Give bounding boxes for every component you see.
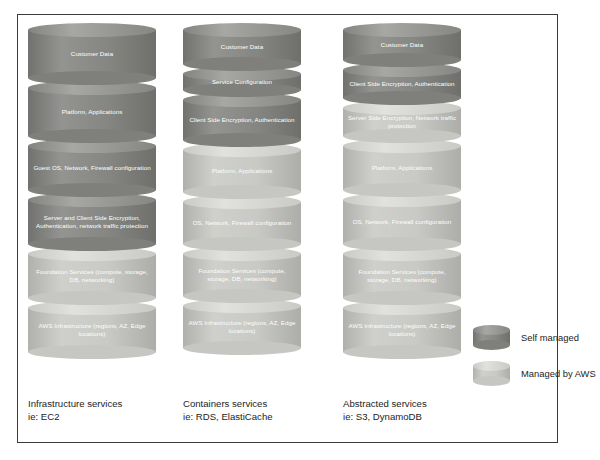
cylinder-layer: AWS Infrastructure (regions, AZ, Edge lo… bbox=[183, 299, 301, 355]
cylinder-layer: Foundation Services (compute, storage, D… bbox=[183, 247, 301, 303]
cylinder-layer: Platform, Applications bbox=[343, 139, 461, 197]
diagram-frame: Customer DataPlatform, ApplicationsGuest… bbox=[17, 14, 558, 443]
cylinder-bottom-ellipse bbox=[183, 133, 301, 147]
cylinder-bottom-ellipse bbox=[343, 91, 461, 105]
cylinder-layer: Foundation Services (compute, storage, D… bbox=[343, 247, 461, 305]
cylinder-bottom-ellipse bbox=[343, 183, 461, 197]
cylinder-layer: Platform, Applications bbox=[28, 81, 156, 143]
cylinder-top-ellipse bbox=[28, 23, 156, 37]
cylinder-layer: Foundation Services (compute, storage, D… bbox=[28, 247, 156, 305]
caption-example: ie: EC2 bbox=[28, 411, 178, 424]
cylinder-layer: Customer Data bbox=[28, 23, 156, 85]
caption-infrastructure-services: Infrastructure services ie: EC2 bbox=[28, 398, 178, 423]
caption-example: ie: S3, DynamoDB bbox=[343, 411, 493, 424]
cylinder-bottom-ellipse bbox=[473, 376, 510, 386]
cylinder-bottom-ellipse bbox=[183, 83, 301, 97]
cylinder-bottom-ellipse bbox=[28, 291, 156, 305]
cylinder-layer: Client Side Encryption, Authentication bbox=[183, 93, 301, 147]
cylinder-bottom-ellipse bbox=[183, 185, 301, 199]
cylinder-layer: OS, Network, Firewall configuration bbox=[343, 193, 461, 251]
caption-example: ie: RDS, ElastiCache bbox=[183, 411, 333, 424]
cylinder-layer: Client Side Encryption, Authentication bbox=[343, 63, 461, 105]
caption-containers-services: Containers services ie: RDS, ElastiCache bbox=[183, 398, 333, 423]
cylinder-bottom-ellipse bbox=[473, 340, 510, 350]
cylinder-top-ellipse bbox=[473, 361, 510, 371]
cylinder-bottom-ellipse bbox=[28, 183, 156, 197]
cylinder-top-ellipse bbox=[473, 325, 510, 335]
caption-title: Infrastructure services bbox=[28, 398, 122, 409]
legend-swatch-self-managed bbox=[473, 325, 510, 350]
legend-item: Managed by AWS bbox=[473, 357, 600, 393]
cylinder-layer: Server and Client Side Encryption, Authe… bbox=[28, 193, 156, 251]
cylinder-bottom-ellipse bbox=[343, 237, 461, 251]
legend-item: Self managed bbox=[473, 321, 600, 357]
cylinder-bottom-ellipse bbox=[28, 237, 156, 251]
cylinder-layer: AWS Infrastructure (regions, AZ, Edge lo… bbox=[28, 301, 156, 359]
cylinder-bottom-ellipse bbox=[183, 57, 301, 71]
cylinder-bottom-ellipse bbox=[28, 345, 156, 359]
cylinder-bottom-ellipse bbox=[183, 289, 301, 303]
legend-label: Self managed bbox=[521, 332, 579, 343]
cylinder-layer: Customer Data bbox=[183, 23, 301, 71]
caption-title: Containers services bbox=[183, 398, 267, 409]
cylinder-layer: Customer Data bbox=[343, 23, 461, 67]
cylinder-bottom-ellipse bbox=[183, 237, 301, 251]
cylinder-layer: AWS Infrastructure (regions, AZ, Edge lo… bbox=[343, 301, 461, 359]
caption-abstracted-services: Abstracted services ie: S3, DynamoDB bbox=[343, 398, 493, 423]
cylinder-layer: Service Configuration bbox=[183, 67, 301, 97]
cylinder-top-ellipse bbox=[183, 23, 301, 37]
cylinder-layer: OS, Network, Firewall configuration bbox=[183, 195, 301, 251]
cylinder-layer: Guest OS, Network, Firewall configuratio… bbox=[28, 139, 156, 197]
legend: Self managedManaged by AWS bbox=[473, 321, 600, 393]
caption-title: Abstracted services bbox=[343, 398, 427, 409]
cylinder-bottom-ellipse bbox=[343, 291, 461, 305]
cylinder-bottom-ellipse bbox=[183, 341, 301, 355]
cylinder-bottom-ellipse bbox=[343, 53, 461, 67]
legend-label: Managed by AWS bbox=[521, 368, 596, 379]
cylinder-layer: Server Side Encryption, Network traffic … bbox=[343, 101, 461, 143]
cylinder-bottom-ellipse bbox=[343, 345, 461, 359]
cylinder-bottom-ellipse bbox=[28, 129, 156, 143]
cylinder-top-ellipse bbox=[343, 23, 461, 37]
cylinder-bottom-ellipse bbox=[343, 129, 461, 143]
cylinder-bottom-ellipse bbox=[28, 71, 156, 85]
cylinder-layer: Platform, Applications bbox=[183, 143, 301, 199]
legend-swatch-managed-by-aws bbox=[473, 361, 510, 386]
